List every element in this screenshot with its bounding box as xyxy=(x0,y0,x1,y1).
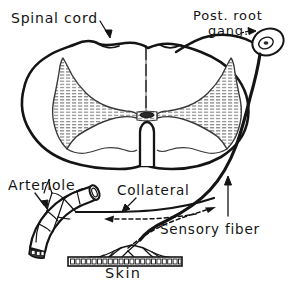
posterior-root-ganglion xyxy=(248,24,287,60)
dorsal-median-septum xyxy=(145,46,146,118)
central-canal xyxy=(140,112,154,117)
ventral-median-fissure xyxy=(140,122,154,166)
label-skin: Skin xyxy=(105,266,141,281)
spinal-cord-arrow xyxy=(100,21,112,38)
anatomical-figure: Spinal cord Post. root gang. Arteriole C… xyxy=(0,0,294,289)
arteriole-arrow xyxy=(35,193,48,209)
skin-nerve-endings xyxy=(85,240,174,258)
label-collateral: Collateral xyxy=(117,183,190,197)
collateral-arrow xyxy=(122,198,136,212)
sensory-flow-arrowhead xyxy=(205,207,216,213)
label-post-root-gang-line2: gang. xyxy=(208,24,249,38)
label-arteriole: Arteriole xyxy=(8,178,75,193)
label-spinal-cord: Spinal cord xyxy=(11,11,98,26)
label-post-root-gang-line1: Post. root xyxy=(193,9,263,23)
figure-canvas xyxy=(0,0,294,289)
collateral-branch xyxy=(76,198,214,223)
collateral-flow-arrowhead xyxy=(104,216,114,223)
label-sensory-fiber: Sensory fiber xyxy=(160,222,260,236)
sensory-fiber-arrow xyxy=(225,176,232,216)
